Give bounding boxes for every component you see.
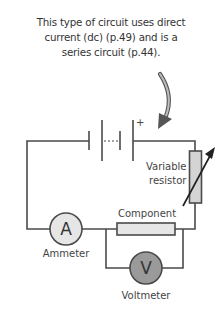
voltmeter-label: Voltmeter [122,290,172,301]
battery-polarity-label: + [136,117,144,128]
ammeter-label: Ammeter [43,248,91,259]
circuit-diagram: + Variable resistor Component A Ammeter … [0,0,224,313]
component-label: Component [118,208,176,219]
battery-icon [89,120,133,161]
variable-resistor-icon [183,147,215,206]
variable-resistor-label-line2: resistor [149,175,187,186]
component-icon [117,223,175,235]
ammeter-icon: A [50,213,82,245]
variable-resistor-label-line1: Variable [146,161,187,172]
voltmeter-icon: V [130,252,162,284]
curved-arrow-icon [158,74,172,129]
ammeter-symbol: A [60,219,72,239]
voltmeter-symbol: V [140,258,152,278]
